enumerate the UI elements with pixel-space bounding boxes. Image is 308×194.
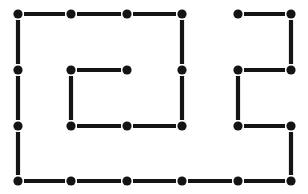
node-layer bbox=[13, 9, 295, 185]
lattice-node bbox=[233, 121, 242, 130]
lattice-node bbox=[286, 65, 295, 74]
lattice-node bbox=[177, 9, 186, 18]
lattice-node bbox=[66, 9, 75, 18]
lattice-node bbox=[177, 65, 186, 74]
lattice-node bbox=[122, 65, 131, 74]
lattice-node bbox=[233, 65, 242, 74]
lattice-node bbox=[233, 176, 242, 185]
lattice-node bbox=[233, 9, 242, 18]
lattice-node bbox=[66, 121, 75, 130]
lattice-node bbox=[286, 176, 295, 185]
edge-layer bbox=[18, 14, 291, 181]
lattice-node bbox=[66, 176, 75, 185]
lattice-node bbox=[13, 65, 22, 74]
lattice-node bbox=[177, 176, 186, 185]
lattice-node bbox=[286, 9, 295, 18]
lattice-node bbox=[122, 9, 131, 18]
lattice-node bbox=[66, 65, 75, 74]
lattice-figure bbox=[0, 0, 308, 194]
lattice-node bbox=[122, 121, 131, 130]
lattice-node bbox=[177, 121, 186, 130]
lattice-node bbox=[122, 176, 131, 185]
lattice-node bbox=[286, 121, 295, 130]
lattice-node bbox=[13, 176, 22, 185]
lattice-node bbox=[13, 9, 22, 18]
lattice-node bbox=[13, 121, 22, 130]
lattice-canvas bbox=[0, 0, 308, 194]
